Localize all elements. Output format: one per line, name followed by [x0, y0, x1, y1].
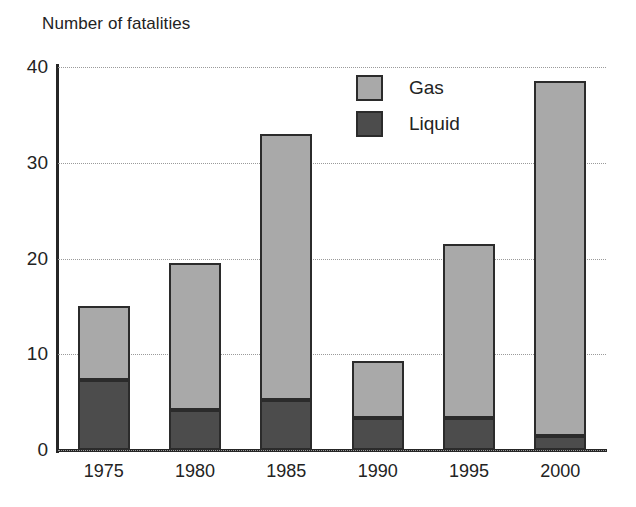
legend-swatch-liquid	[356, 111, 383, 137]
plot-area	[58, 67, 606, 450]
bar-segment-liquid[interactable]	[169, 410, 221, 450]
fatalities-bar-chart: Number of fatalities 010203040 197519801…	[0, 0, 636, 507]
bar-segment-gas[interactable]	[352, 361, 404, 418]
bar-segment-gas[interactable]	[260, 134, 312, 400]
gridline	[58, 67, 606, 68]
x-tick-label: 1990	[358, 461, 398, 482]
legend-item-liquid[interactable]: Liquid	[356, 106, 460, 142]
bar-group[interactable]	[169, 67, 221, 450]
bar-group[interactable]	[78, 67, 130, 450]
gridline	[58, 163, 606, 164]
y-tick-label: 20	[4, 248, 48, 270]
gridline	[58, 354, 606, 355]
chart-legend: GasLiquid	[356, 70, 460, 142]
bar-segment-liquid[interactable]	[78, 380, 130, 450]
x-tick-label: 2000	[540, 461, 580, 482]
bar-segment-gas[interactable]	[78, 306, 130, 380]
bar-group[interactable]	[260, 67, 312, 450]
y-tick-label: 10	[4, 343, 48, 365]
bar-group[interactable]	[534, 67, 586, 450]
legend-swatch-gas	[356, 75, 383, 101]
y-tick-label: 30	[4, 152, 48, 174]
gridline	[58, 259, 606, 260]
x-tick-label: 1995	[449, 461, 489, 482]
y-tick-label: 40	[4, 56, 48, 78]
gridline	[58, 450, 606, 451]
bar-segment-liquid[interactable]	[443, 418, 495, 450]
legend-label: Liquid	[409, 113, 460, 135]
x-tick-label: 1985	[266, 461, 306, 482]
bar-segment-liquid[interactable]	[534, 436, 586, 450]
legend-item-gas[interactable]: Gas	[356, 70, 460, 106]
bar-segment-gas[interactable]	[169, 263, 221, 409]
chart-title: Number of fatalities	[42, 14, 190, 34]
legend-label: Gas	[409, 77, 444, 99]
x-tick-label: 1975	[84, 461, 124, 482]
bar-segment-liquid[interactable]	[260, 400, 312, 450]
x-tick-label: 1980	[175, 461, 215, 482]
y-tick-label: 0	[4, 439, 48, 461]
bar-segment-gas[interactable]	[534, 81, 586, 435]
bar-segment-gas[interactable]	[443, 244, 495, 418]
bar-segment-liquid[interactable]	[352, 418, 404, 450]
